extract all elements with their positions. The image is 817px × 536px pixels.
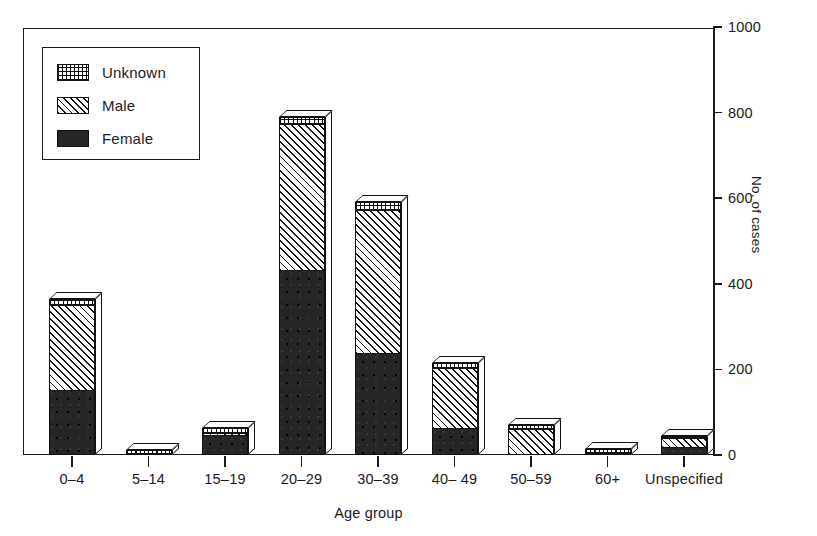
bar-15-19 xyxy=(202,420,248,455)
bar-segment-male xyxy=(280,124,324,270)
x-axis-tick-label: 60+ xyxy=(595,472,620,487)
x-axis-tick xyxy=(607,456,609,467)
legend-item-female: Female xyxy=(57,128,153,148)
x-axis-tick xyxy=(454,456,456,467)
bar-side-face xyxy=(401,196,408,455)
bar-0-4 xyxy=(49,291,95,455)
bar-top-face xyxy=(661,429,715,436)
x-axis-tick xyxy=(301,456,303,467)
y-axis-tick xyxy=(713,283,722,285)
bar-side-face xyxy=(325,111,332,455)
y-axis-tick xyxy=(713,26,722,28)
bar-top-face xyxy=(279,110,333,117)
bar-segment-male xyxy=(586,453,630,455)
legend-item-male: Male xyxy=(57,95,135,115)
bar-segment-male xyxy=(662,438,706,447)
bar-segment-female xyxy=(356,353,400,455)
bar-top-face xyxy=(585,442,639,449)
x-axis-tick xyxy=(71,456,73,467)
bar-segment-male xyxy=(433,368,477,428)
y-axis-tick-label: 1000 xyxy=(728,20,761,35)
bar-segment-female xyxy=(662,447,706,455)
bar-segment-male xyxy=(356,210,400,353)
bar-segment-female xyxy=(433,428,477,455)
bar-segment-male xyxy=(127,454,171,455)
bar-segment-male xyxy=(50,305,94,390)
y-axis-tick xyxy=(713,369,722,371)
legend-label: Unknown xyxy=(102,64,166,81)
legend: UnknownMaleFemale xyxy=(42,47,200,160)
x-axis-tick-label: 5–14 xyxy=(132,472,165,487)
bar-5-14 xyxy=(126,442,172,455)
bar-side-face xyxy=(554,419,561,455)
bar-segment-female xyxy=(509,454,553,455)
bar-side-face xyxy=(478,357,485,455)
x-axis-tick xyxy=(148,456,150,467)
bar-20-29 xyxy=(279,109,325,455)
bar-front-face xyxy=(49,299,95,455)
bar-front-face xyxy=(585,449,631,455)
bar-30-39 xyxy=(355,194,401,455)
x-axis-tick xyxy=(224,456,226,467)
bar-segment-male xyxy=(509,429,553,455)
y-axis-tick xyxy=(713,112,722,114)
legend-swatch-female xyxy=(57,130,89,147)
legend-label: Female xyxy=(102,130,153,147)
x-axis-tick-label: Unspecified xyxy=(645,472,723,487)
bar-front-face xyxy=(661,436,707,455)
y-axis-title: No. of cases xyxy=(749,176,764,316)
bar-segment-female xyxy=(280,270,324,455)
x-axis-tick xyxy=(530,456,532,467)
bar-segment-female xyxy=(50,390,94,455)
y-axis-tick-label: 800 xyxy=(728,106,753,121)
y-axis-tick-label: 200 xyxy=(728,362,753,377)
bar-segment-female xyxy=(203,435,247,455)
x-axis-tick-label: 40– 49 xyxy=(432,472,478,487)
bar-top-face xyxy=(202,421,256,428)
bar-top-face xyxy=(126,443,180,450)
bar-front-face xyxy=(355,202,401,455)
bar-front-face xyxy=(432,363,478,455)
bar-front-face xyxy=(202,428,248,455)
x-axis-tick-label: 0–4 xyxy=(60,472,85,487)
legend-item-unknown: Unknown xyxy=(57,62,166,82)
bar-chart: 10008006004002000 No. of cases 0–45–1415… xyxy=(0,0,817,536)
x-axis-tick-label: 50–59 xyxy=(510,472,551,487)
bar-top-face xyxy=(432,356,486,363)
legend-label: Male xyxy=(102,97,135,114)
bar-front-face xyxy=(126,450,172,455)
legend-swatch-unknown xyxy=(57,64,89,81)
bar-60+ xyxy=(585,441,631,455)
bar-40-49 xyxy=(432,355,478,455)
bar-unspecified xyxy=(661,428,707,455)
x-axis-title: Age group xyxy=(0,505,737,521)
legend-swatch-male xyxy=(57,97,89,114)
x-axis-tick-label: 15–19 xyxy=(204,472,245,487)
y-axis-tick xyxy=(713,197,722,199)
y-axis-spine xyxy=(713,27,715,456)
bar-top-face xyxy=(508,418,562,425)
bar-top-face xyxy=(355,195,409,202)
x-axis-tick xyxy=(377,456,379,467)
x-axis-tick xyxy=(683,456,685,467)
bar-top-face xyxy=(49,292,103,299)
bar-front-face xyxy=(508,425,554,455)
bar-side-face xyxy=(95,292,102,455)
y-axis-tick-label: 0 xyxy=(728,448,736,463)
bar-front-face xyxy=(279,117,325,455)
y-axis-tick xyxy=(713,454,722,456)
x-axis-tick-label: 30–39 xyxy=(357,472,398,487)
bar-50-59 xyxy=(508,417,554,455)
x-axis-tick-label: 20–29 xyxy=(281,472,322,487)
